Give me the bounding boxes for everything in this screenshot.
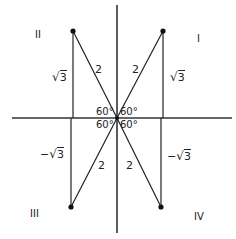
hypotenuse-label-q2: 2 <box>95 64 102 75</box>
angle-label-q4: 60° <box>120 120 138 130</box>
opposite-label-q4: −√3 <box>167 150 191 162</box>
quadrant-label-iii: III <box>30 209 39 219</box>
sqrt-icon: √3 <box>52 71 67 83</box>
point-q3 <box>68 204 73 209</box>
origin-point <box>115 116 119 120</box>
hypotenuse-label-q4: 2 <box>126 160 133 171</box>
sign: − <box>167 150 176 163</box>
hypotenuse-label-q1: 2 <box>132 64 139 75</box>
radicand: 3 <box>178 70 185 84</box>
quadrant-label-i: I <box>197 34 200 44</box>
angle-label-q2: 60° <box>96 107 114 117</box>
point-q4 <box>158 204 163 209</box>
angle-label-q1: 60° <box>120 107 138 117</box>
quadrant-label-iv: IV <box>194 212 204 222</box>
radicand: 3 <box>184 149 191 163</box>
quadrant-label-ii: II <box>35 30 41 40</box>
opposite-label-q2: √3 <box>52 71 67 83</box>
point-q2 <box>70 28 75 33</box>
sqrt-icon: √3 <box>170 71 185 83</box>
hypotenuse-q3 <box>71 118 117 207</box>
radicand: 3 <box>60 70 67 84</box>
hypotenuse-q1 <box>117 31 163 118</box>
radicand: 3 <box>57 147 64 161</box>
opposite-label-q3: −√3 <box>40 148 64 160</box>
angle-label-q3: 60° <box>96 120 114 130</box>
hypotenuse-q4 <box>117 118 161 207</box>
point-q1 <box>160 28 165 33</box>
hypotenuse-label-q3: 2 <box>98 160 105 171</box>
sign: − <box>40 148 49 161</box>
trig-reference-diagram: II I III IV 2 2 2 2 √3 √3 −√3 −√3 60° 60… <box>0 0 236 239</box>
sqrt-icon: √3 <box>49 148 64 160</box>
sqrt-icon: √3 <box>176 150 191 162</box>
opposite-label-q1: √3 <box>170 71 185 83</box>
